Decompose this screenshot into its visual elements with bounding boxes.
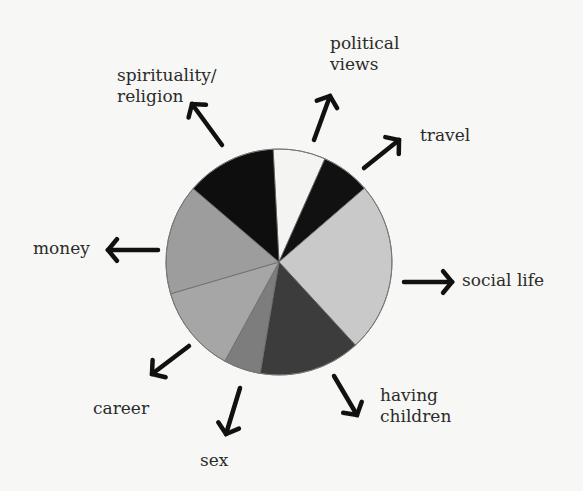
- label-political-line2: views: [330, 54, 399, 75]
- label-political-line1: political: [330, 33, 399, 54]
- label-political-views: political views: [330, 33, 399, 75]
- label-having-children: having children: [380, 385, 451, 427]
- career-arrow-icon: [152, 346, 189, 377]
- label-sex: sex: [200, 450, 228, 471]
- sex-arrow-icon: [218, 388, 240, 434]
- label-spirituality: spirituality/ religion: [117, 65, 217, 107]
- political-arrow-icon: [314, 96, 337, 140]
- pie-slices: [166, 149, 392, 375]
- label-having-line2: children: [380, 406, 451, 427]
- label-spirituality-line2: religion: [117, 86, 217, 107]
- label-money: money: [33, 238, 90, 259]
- having-arrow-icon: [334, 376, 362, 415]
- social-arrow-icon: [404, 271, 452, 293]
- label-spirituality-line1: spirituality/: [117, 65, 217, 86]
- label-social-life: social life: [462, 270, 544, 291]
- label-travel: travel: [420, 125, 470, 146]
- label-having-line1: having: [380, 385, 451, 406]
- money-arrow-icon: [108, 239, 158, 261]
- spirituality-arrow-icon: [189, 104, 222, 145]
- travel-arrow-icon: [364, 137, 399, 168]
- label-career: career: [93, 398, 149, 419]
